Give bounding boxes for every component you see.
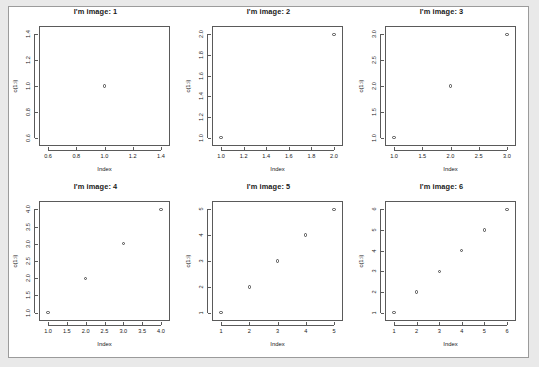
x-tick <box>394 147 395 150</box>
scatter-panel-4: I'm image: 41.01.52.02.53.03.54.01.01.52… <box>9 182 182 357</box>
data-point <box>505 208 508 211</box>
y-tick-label: 2.0 <box>198 30 204 38</box>
x-tick-label: 1.2 <box>240 153 248 159</box>
y-tick <box>35 60 38 61</box>
y-tick-label: 1.0 <box>25 82 31 90</box>
panel-title: I'm image: 4 <box>9 182 182 191</box>
y-tick <box>35 209 38 210</box>
data-point <box>449 84 452 87</box>
x-tick <box>507 322 508 325</box>
x-tick-label: 1.5 <box>63 328 71 334</box>
data-point <box>505 33 508 36</box>
x-tick <box>244 147 245 150</box>
y-tick <box>35 86 38 87</box>
y-tick-label: 2.5 <box>371 56 377 64</box>
y-tick-label: 3.0 <box>25 240 31 248</box>
x-tick-label: 3.0 <box>119 328 127 334</box>
x-tick <box>484 322 485 325</box>
x-tick <box>142 322 143 325</box>
x-tick <box>479 147 480 150</box>
x-tick-label: 1 <box>392 328 395 334</box>
x-tick-label: 1.5 <box>418 153 426 159</box>
y-tick-label: 2.0 <box>25 274 31 282</box>
x-axis-label: Index <box>97 341 111 347</box>
x-tick <box>105 147 106 150</box>
x-axis-label: Index <box>270 341 284 347</box>
y-tick <box>208 55 211 56</box>
x-tick <box>48 147 49 150</box>
data-point <box>438 270 441 273</box>
x-tick-label: 1.4 <box>157 153 165 159</box>
y-tick <box>208 287 211 288</box>
data-point <box>332 33 335 36</box>
y-tick-label: 3 <box>371 270 377 273</box>
x-tick-label: 1.6 <box>285 153 293 159</box>
x-axis-line <box>394 150 507 151</box>
x-tick-label: 1.0 <box>44 328 52 334</box>
y-tick <box>35 112 38 113</box>
x-tick-label: 2 <box>248 328 251 334</box>
x-tick <box>417 322 418 325</box>
y-tick-label: 1.2 <box>198 113 204 121</box>
data-point <box>248 285 251 288</box>
y-tick <box>381 251 384 252</box>
x-axis-line <box>48 150 161 151</box>
y-tick <box>381 60 384 61</box>
x-tick <box>161 322 162 325</box>
x-tick <box>507 147 508 150</box>
y-tick-label: 4 <box>371 249 377 252</box>
y-tick <box>208 261 211 262</box>
y-tick <box>208 313 211 314</box>
y-axis-line <box>207 34 208 137</box>
panel-title: I'm image: 5 <box>182 182 355 191</box>
x-tick <box>123 322 124 325</box>
y-tick-label: 1.5 <box>371 108 377 116</box>
y-axis-label: c(1:i) <box>185 254 191 267</box>
x-tick <box>311 147 312 150</box>
y-tick-label: 2 <box>198 285 204 288</box>
x-tick-label: 1.0 <box>390 153 398 159</box>
y-tick <box>381 86 384 87</box>
x-tick <box>76 147 77 150</box>
x-tick-label: 2 <box>415 328 418 334</box>
x-tick-label: 6 <box>505 328 508 334</box>
data-point <box>483 228 486 231</box>
y-tick <box>35 313 38 314</box>
y-tick-label: 1 <box>198 311 204 314</box>
x-tick-label: 1.2 <box>129 153 137 159</box>
y-tick <box>35 34 38 35</box>
x-tick-label: 2.0 <box>447 153 455 159</box>
x-tick-label: 3.0 <box>503 153 511 159</box>
y-tick <box>381 209 384 210</box>
panel-title: I'm image: 2 <box>182 7 355 16</box>
y-axis-label: c(1:i) <box>358 254 364 267</box>
scatter-panel-3: I'm image: 31.01.52.02.53.01.01.52.02.53… <box>355 7 528 182</box>
x-tick <box>67 322 68 325</box>
x-tick-label: 2.0 <box>330 153 338 159</box>
x-tick <box>334 322 335 325</box>
y-tick-label: 1.6 <box>198 72 204 80</box>
y-tick-label: 1.0 <box>25 309 31 317</box>
y-axis-label: c(1:i) <box>358 79 364 92</box>
y-tick-label: 3.0 <box>371 30 377 38</box>
x-tick-label: 2.5 <box>475 153 483 159</box>
x-tick <box>462 322 463 325</box>
x-tick-label: 2.0 <box>82 328 90 334</box>
data-point <box>415 290 418 293</box>
x-tick <box>48 322 49 325</box>
panel-title: I'm image: 6 <box>355 182 528 191</box>
x-tick-label: 3 <box>276 328 279 334</box>
y-tick <box>35 278 38 279</box>
y-tick <box>208 96 211 97</box>
data-point <box>103 84 106 87</box>
y-tick <box>208 209 211 210</box>
x-tick <box>161 147 162 150</box>
y-tick-label: 3 <box>198 259 204 262</box>
x-tick <box>451 147 452 150</box>
x-tick <box>278 322 279 325</box>
y-tick-label: 0.8 <box>25 108 31 116</box>
x-tick <box>221 322 222 325</box>
x-axis-label: Index <box>443 341 457 347</box>
panel-title: I'm image: 3 <box>355 7 528 16</box>
x-axis-label: Index <box>270 166 284 172</box>
